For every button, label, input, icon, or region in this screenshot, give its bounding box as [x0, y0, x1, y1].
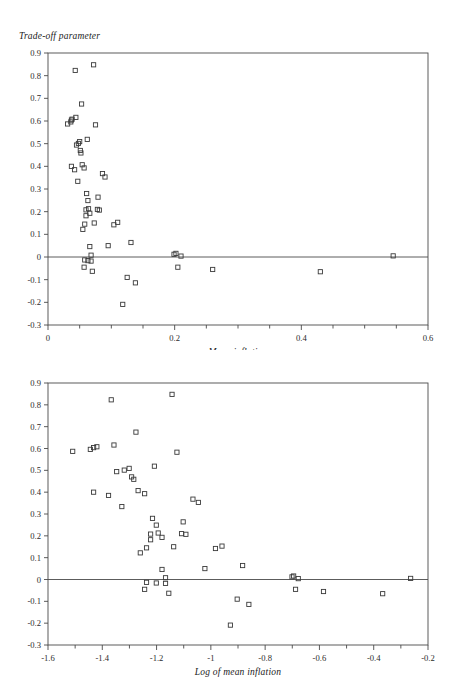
- data-point-marker: [93, 123, 97, 127]
- y-tick-label: 0: [37, 252, 41, 262]
- data-point-marker: [149, 538, 153, 542]
- x-tick-label: -1: [207, 653, 214, 663]
- data-point-marker: [71, 449, 75, 453]
- data-point-marker: [85, 137, 89, 141]
- data-point-marker: [109, 398, 113, 402]
- y-tick-label: 0.6: [30, 444, 41, 454]
- data-point-marker: [296, 577, 300, 581]
- y-tick-label: -0.1: [27, 596, 41, 606]
- data-points: [66, 63, 396, 307]
- data-point-marker: [181, 520, 185, 524]
- data-point-marker: [121, 302, 125, 306]
- x-tick-label: 0.6: [423, 333, 434, 343]
- data-point-marker: [83, 222, 87, 226]
- data-point-marker: [321, 589, 325, 593]
- data-point-marker: [184, 532, 188, 536]
- data-point-marker: [160, 535, 164, 539]
- data-point-marker: [81, 227, 85, 231]
- y-tick-label: 0.4: [30, 161, 41, 171]
- y-tick-label: 0.5: [30, 465, 41, 475]
- data-point-marker: [106, 244, 110, 248]
- y-tick-label: 0.7: [30, 93, 41, 103]
- data-point-marker: [220, 544, 224, 548]
- x-tick-label: -0.6: [313, 653, 327, 663]
- y-tick-label: 0.3: [30, 184, 41, 194]
- y-tick-label: -0.2: [27, 297, 41, 307]
- y-tick-label: 0.7: [30, 422, 41, 432]
- data-point-marker: [179, 254, 183, 258]
- data-point-marker: [86, 198, 90, 202]
- data-point-marker: [144, 546, 148, 550]
- data-point-marker: [381, 592, 385, 596]
- data-point-marker: [96, 195, 100, 199]
- data-point-marker: [154, 523, 158, 527]
- y-tick-label: 0.5: [30, 139, 41, 149]
- y-tick-label: 0.6: [30, 116, 41, 126]
- x-tick-label: 0.2: [169, 333, 180, 343]
- data-point-marker: [92, 63, 96, 67]
- data-point-marker: [167, 591, 171, 595]
- x-tick-label: -1.2: [150, 653, 164, 663]
- data-point-marker: [138, 551, 142, 555]
- data-point-marker: [228, 623, 232, 627]
- x-tick-label: -1.4: [95, 653, 109, 663]
- x-tick-label: -1.6: [41, 653, 55, 663]
- data-point-marker: [318, 270, 322, 274]
- data-point-marker: [127, 466, 131, 470]
- data-point-marker: [196, 500, 200, 504]
- data-point-marker: [203, 566, 207, 570]
- y-tick-label: -0.3: [27, 640, 41, 650]
- data-point-marker: [120, 504, 124, 508]
- y-tick-label: -0.3: [27, 320, 41, 330]
- y-tick-label: 0.8: [30, 400, 41, 410]
- data-point-marker: [152, 464, 156, 468]
- scatter-plot-top: -0.3-0.2-0.100.10.20.30.40.50.60.70.80.9…: [0, 0, 449, 350]
- data-point-marker: [235, 597, 239, 601]
- data-point-marker: [76, 179, 80, 183]
- data-point-marker: [211, 267, 215, 271]
- data-point-marker: [149, 532, 153, 536]
- data-point-marker: [247, 602, 251, 606]
- data-point-marker: [160, 567, 164, 571]
- x-tick-label: -0.4: [367, 653, 381, 663]
- data-point-marker: [115, 470, 119, 474]
- data-points: [71, 392, 413, 627]
- data-point-marker: [175, 450, 179, 454]
- data-point-marker: [88, 244, 92, 248]
- data-point-marker: [179, 532, 183, 536]
- data-point-marker: [176, 265, 180, 269]
- y-tick-label: -0.1: [27, 275, 41, 285]
- x-tick-label: 0.4: [296, 333, 307, 343]
- scatter-panel-mean-inflation: -0.3-0.2-0.100.10.20.30.40.50.60.70.80.9…: [0, 0, 449, 350]
- data-point-marker: [144, 580, 148, 584]
- data-point-marker: [241, 563, 245, 567]
- data-point-marker: [191, 497, 195, 501]
- data-point-marker: [92, 221, 96, 225]
- data-point-marker: [73, 68, 77, 72]
- data-point-marker: [133, 281, 137, 285]
- x-tick-label: -0.2: [421, 653, 435, 663]
- data-point-marker: [213, 546, 217, 550]
- data-point-marker: [163, 581, 167, 585]
- data-point-marker: [82, 265, 86, 269]
- y-tick-label: 0.9: [30, 378, 41, 388]
- data-point-marker: [122, 468, 126, 472]
- y-tick-label: -0.2: [27, 618, 41, 628]
- data-point-marker: [170, 392, 174, 396]
- scatter-panel-log-mean-inflation: -0.3-0.2-0.100.10.20.30.40.50.60.70.80.9…: [0, 350, 449, 699]
- y-tick-label: 0.9: [30, 48, 41, 58]
- y-tick-label: 0.2: [30, 531, 41, 541]
- data-point-marker: [90, 269, 94, 273]
- data-point-marker: [79, 102, 83, 106]
- y-tick-label: 0.4: [30, 487, 41, 497]
- y-tick-label: 0.2: [30, 207, 41, 217]
- scatter-plot-bottom: -0.3-0.2-0.100.10.20.30.40.50.60.70.80.9…: [0, 350, 449, 699]
- data-point-marker: [143, 587, 147, 591]
- y-tick-label: 0.8: [30, 71, 41, 81]
- data-point-marker: [129, 240, 133, 244]
- x-tick-label: 0: [46, 333, 50, 343]
- y-tick-label: 0.1: [30, 553, 41, 563]
- data-point-marker: [154, 581, 158, 585]
- data-point-marker: [143, 492, 147, 496]
- y-tick-label: 0: [37, 575, 41, 585]
